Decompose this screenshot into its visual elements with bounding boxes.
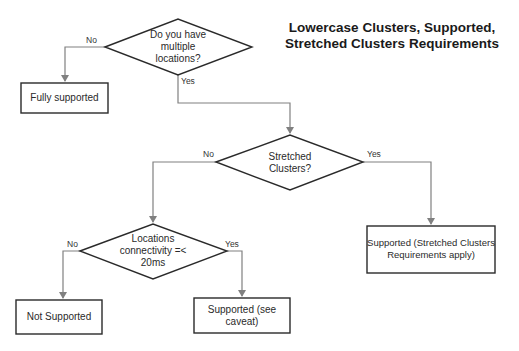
edge-label-q3-yes: Yes [225,239,239,249]
edge-label-q1-yes: Yes [181,76,195,86]
edge-label-q3-no: No [67,239,78,249]
q1-text: Do you have multiple locations? [138,29,218,65]
arrowhead-icon [427,218,435,225]
edge-q1-no [65,47,105,81]
fully-supported-text: Fully supported [21,92,108,104]
supported-stretched-text: Supported (Stretched Clusters Requiremen… [367,237,495,261]
diagram-title: Lowercase Clusters, Supported, Stretched… [272,20,512,52]
edge-q3-yes [227,251,242,296]
arrowhead-icon [59,292,67,299]
title-line-1: Lowercase Clusters, Supported, [272,20,512,36]
arrowhead-icon [286,127,294,134]
flowchart-canvas [0,0,519,351]
supported-caveat-line: Supported (see [194,304,290,316]
supported-stretched-line: Supported (Stretched Clusters [367,237,495,249]
q2-line: Stretched [250,151,330,163]
arrowhead-icon [149,216,157,223]
edge-q2-no [153,162,216,222]
edge-label-q1-no: No [86,35,97,45]
not-supported-line: Not Supported [16,311,102,323]
q1-line: Do you have [138,29,218,41]
edge-q2-yes [363,162,431,224]
not-supported-text: Not Supported [16,311,102,323]
q2-line: Clusters? [250,163,330,175]
edge-q3-no [63,251,80,298]
q3-line: connectivity =< [108,245,198,257]
arrowhead-icon [238,290,246,297]
q3-text: Locations connectivity =< 20ms [108,233,198,269]
arrowhead-icon [61,75,69,82]
q3-line: 20ms [108,257,198,269]
q1-line: locations? [138,53,218,65]
q1-line: multiple [138,41,218,53]
fully-supported-line: Fully supported [21,92,108,104]
edge-label-q2-yes: Yes [367,149,381,159]
title-line-2: Stretched Clusters Requirements [272,36,512,52]
edge-label-q2-no: No [203,149,214,159]
supported-stretched-line: Requirements apply) [367,249,495,261]
supported-caveat-line: caveat) [194,316,290,328]
q3-line: Locations [108,233,198,245]
supported-caveat-text: Supported (see caveat) [194,304,290,328]
q2-text: Stretched Clusters? [250,151,330,175]
